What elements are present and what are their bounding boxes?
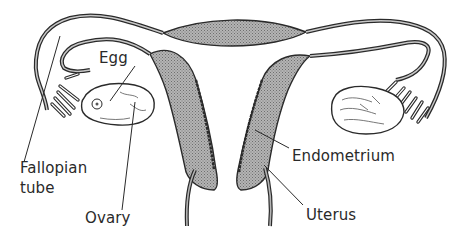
- label-ovary: Ovary: [85, 210, 130, 227]
- uterus-right-wall: [237, 55, 310, 190]
- uterine-fundus: [163, 20, 306, 46]
- label-fallopian-tube-line2: tube: [20, 180, 55, 197]
- left-fimbriae: [52, 74, 78, 116]
- reproductive-system-diagram: Egg Fallopian tube Ovary Endometrium Ute…: [0, 0, 459, 247]
- label-egg: Egg: [99, 50, 128, 67]
- label-uterus: Uterus: [306, 207, 356, 224]
- anatomy-illustration: [0, 0, 459, 247]
- uterus-left-wall: [150, 50, 217, 190]
- label-fallopian-tube-line1: Fallopian: [20, 160, 87, 177]
- label-endometrium: Endometrium: [292, 148, 395, 165]
